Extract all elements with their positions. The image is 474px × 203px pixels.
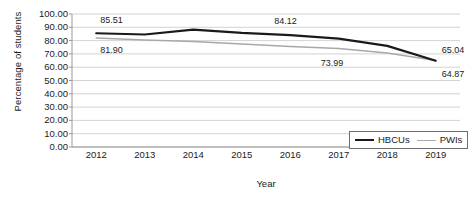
y-axis-tick-label: 90.00 [24, 22, 68, 32]
x-axis-tick-label: 2014 [183, 150, 204, 160]
x-axis-tick-label: 2012 [86, 150, 107, 160]
data-point-label: 73.99 [321, 59, 344, 68]
data-point-label: 85.51 [100, 16, 123, 25]
data-point-label: 81.90 [100, 46, 123, 55]
x-axis-tick-label: 2019 [425, 150, 446, 160]
data-point-label: 65.04 [442, 46, 465, 55]
plot-area [0, 0, 474, 203]
y-axis-tick-label: 40.00 [24, 89, 68, 99]
x-axis-tick-label: 2015 [231, 150, 252, 160]
x-axis-title: Year [72, 178, 460, 189]
y-axis-tick-label: 100.00 [24, 9, 68, 19]
legend-item-pwis[interactable]: PWIs [417, 135, 463, 145]
x-axis-tick-label: 2016 [280, 150, 301, 160]
y-axis-tick-label: 20.00 [24, 115, 68, 125]
legend-label-pwis: PWIs [440, 135, 463, 145]
legend-swatch-pwis-icon [417, 140, 436, 141]
y-axis-tick-label: 10.00 [24, 129, 68, 139]
y-axis-tick-label: 80.00 [24, 36, 68, 46]
y-axis-tick-label: 30.00 [24, 102, 68, 112]
data-point-label: 84.12 [274, 17, 297, 26]
x-axis-tick-label: 2018 [377, 150, 398, 160]
y-axis-tick-label: 50.00 [24, 76, 68, 86]
data-series-layer [96, 30, 436, 61]
line-chart: Percentage of students 0.0010.0020.0030.… [0, 0, 474, 203]
legend-label-hbcus: HBCUs [378, 135, 410, 145]
legend-swatch-hbcus-icon [355, 139, 374, 141]
x-axis-tick-label: 2013 [134, 150, 155, 160]
data-point-label: 64.87 [442, 70, 465, 79]
y-axis-tick-label: 0.00 [24, 142, 68, 152]
y-axis-tick-label: 60.00 [24, 62, 68, 72]
legend-item-hbcus[interactable]: HBCUs [355, 135, 410, 145]
y-axis-tick-labels: 0.0010.0020.0030.0040.0050.0060.0070.008… [22, 0, 68, 203]
y-axis-title: Percentage of students [12, 0, 23, 127]
x-axis-tick-label: 2017 [328, 150, 349, 160]
chart-legend: HBCUs PWIs [349, 131, 468, 149]
y-axis-tick-label: 70.00 [24, 49, 68, 59]
series-line-pwis [96, 38, 436, 60]
